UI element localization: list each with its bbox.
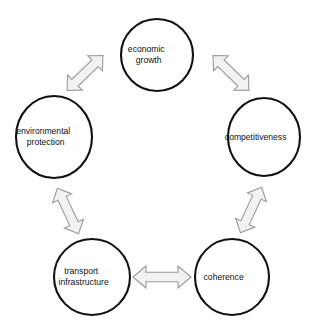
node-competitiveness-label-line1: competitiveness xyxy=(225,132,287,142)
arrow-competitiveness-coherence xyxy=(231,183,271,237)
arrow-transport-infrastructure-environmental-protection xyxy=(48,184,88,238)
node-environmental-protection-label-line2: protection xyxy=(27,137,65,147)
node-environmental-protection-label: environmental protection xyxy=(16,126,91,147)
double-arrow-shape xyxy=(231,183,271,237)
node-economic-growth-label-line2: growth xyxy=(136,55,162,65)
node-competitiveness-label: competitiveness xyxy=(225,131,303,142)
node-transport-infrastructure-label: transport infrastructure xyxy=(59,266,126,287)
double-arrow-shape xyxy=(48,184,88,238)
double-arrow-shape xyxy=(133,266,191,288)
diagram-canvas: economic growth competitiveness coherenc… xyxy=(0,0,316,331)
node-coherence-label: coherence xyxy=(204,271,261,282)
double-arrow-shape xyxy=(60,48,111,98)
node-transport-infrastructure-label-line2: infrastructure xyxy=(59,277,109,287)
node-coherence[interactable]: coherence xyxy=(195,239,269,315)
node-environmental-protection-label-line1: environmental xyxy=(16,126,70,136)
arrow-economic-growth-competitiveness xyxy=(206,48,257,98)
node-coherence-label-line1: coherence xyxy=(204,272,244,282)
node-economic-growth-label: economic growth xyxy=(128,44,186,65)
node-transport-infrastructure-label-line1: transport xyxy=(64,266,99,276)
arrow-coherence-transport-infrastructure xyxy=(133,266,191,288)
node-competitiveness[interactable]: competitiveness xyxy=(225,98,303,176)
double-arrow-shape xyxy=(206,48,257,98)
node-economic-growth[interactable]: economic growth xyxy=(121,19,193,91)
node-environmental-protection[interactable]: environmental protection xyxy=(16,96,92,178)
node-economic-growth-label-line1: economic xyxy=(128,44,165,54)
arrow-economic-growth-environmental-protection xyxy=(60,48,111,98)
node-transport-infrastructure[interactable]: transport infrastructure xyxy=(54,239,130,315)
cycle-diagram: economic growth competitiveness coherenc… xyxy=(0,0,316,331)
